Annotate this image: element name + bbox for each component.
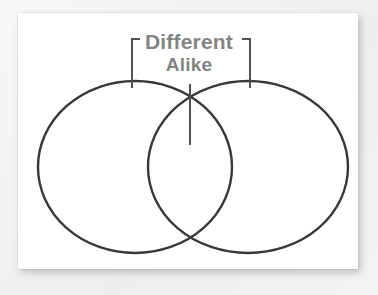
label-alike: Alike: [0, 55, 378, 74]
venn-circle-left: [38, 81, 232, 253]
label-different: Different: [0, 31, 378, 52]
venn-circle-right: [148, 81, 348, 253]
diagram-canvas: Different Alike: [0, 0, 378, 295]
